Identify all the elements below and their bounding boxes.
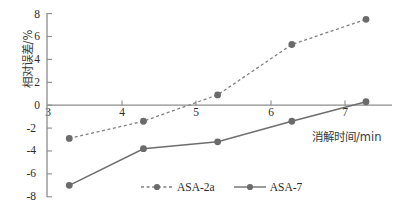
- chart-legend: ASA-2a ASA-7: [140, 181, 302, 193]
- series-asa-2a: ASA-2a x=3 y=-2.9ASA-2a x=4 y=-1.4ASA-2a…: [66, 16, 370, 142]
- data-point: ASA-2a x=3 y=-2.9: [66, 135, 73, 142]
- legend-item-asa-2a: ASA-2a: [140, 181, 215, 193]
- data-point: ASA-2a x=5 y=0.9: [214, 91, 221, 98]
- series-line: [69, 19, 366, 138]
- legend-swatch-solid-icon: [233, 181, 267, 193]
- data-point: ASA-2a x=4 y=-1.4: [140, 118, 147, 125]
- legend-label-asa-7: ASA-7: [270, 181, 303, 193]
- data-point: ASA-7 x=5 y=-3.2: [214, 138, 221, 145]
- data-point: ASA-7 x=7 y=0.3: [363, 98, 370, 105]
- x-axis-ticks: [122, 101, 345, 106]
- chart-figure: 相对误差/% 消解时间/min 8 6 4 2 0 -2 -4 -6 -8 3 …: [0, 0, 401, 214]
- data-point: ASA-2a x=6 y=5.3: [288, 41, 295, 48]
- data-point: ASA-7 x=4 y=-3.8: [140, 145, 147, 152]
- legend-swatch-dashed-icon: [140, 181, 174, 193]
- legend-item-asa-7: ASA-7: [233, 181, 303, 193]
- data-point: ASA-7 x=6 y=-1.4: [288, 118, 295, 125]
- data-point: ASA-2a x=7 y=7.5: [363, 16, 370, 23]
- legend-label-asa-2a: ASA-2a: [177, 181, 215, 193]
- series-asa-7: ASA-7 x=3 y=-7ASA-7 x=4 y=-3.8ASA-7 x=5 …: [66, 98, 370, 188]
- data-point: ASA-7 x=3 y=-7: [66, 182, 73, 189]
